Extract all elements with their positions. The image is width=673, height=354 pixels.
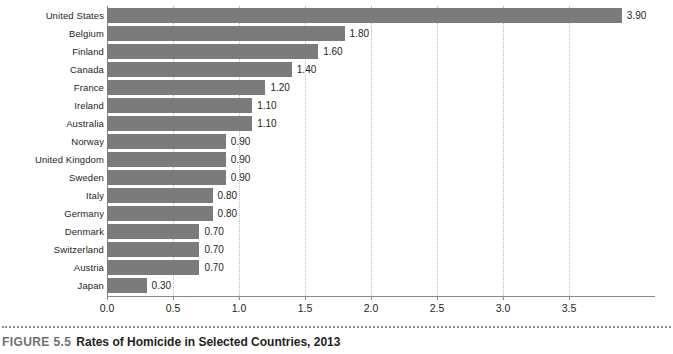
bar-value-label: 0.70 bbox=[204, 243, 223, 256]
bar-row: 0.70 bbox=[107, 242, 673, 257]
bar bbox=[107, 26, 345, 41]
bar bbox=[107, 152, 226, 167]
bar bbox=[107, 116, 252, 131]
caption-divider bbox=[2, 326, 671, 328]
bar bbox=[107, 80, 265, 95]
category-label: Canada bbox=[0, 65, 104, 75]
figure-caption: FIGURE 5.5Rates of Homicide in Selected … bbox=[2, 334, 340, 350]
x-tick-label: 2.0 bbox=[364, 302, 379, 314]
bar-value-label: 1.20 bbox=[270, 81, 289, 94]
bar-row: 1.40 bbox=[107, 62, 673, 77]
category-label: Austria bbox=[0, 263, 104, 273]
bar bbox=[107, 8, 622, 23]
bar-row: 3.90 bbox=[107, 8, 673, 23]
bar-row: 0.90 bbox=[107, 170, 673, 185]
bar-row: 0.70 bbox=[107, 260, 673, 275]
bar bbox=[107, 242, 199, 257]
bar-value-label: 0.90 bbox=[231, 135, 250, 148]
bar bbox=[107, 260, 199, 275]
x-tick-mark bbox=[173, 296, 174, 300]
bar-row: 0.80 bbox=[107, 188, 673, 203]
category-label: United States bbox=[0, 11, 104, 21]
bar-row: 1.20 bbox=[107, 80, 673, 95]
bar-row: 1.10 bbox=[107, 116, 673, 131]
x-tick-mark bbox=[503, 296, 504, 300]
category-label: Belgium bbox=[0, 29, 104, 39]
bar-value-label: 0.90 bbox=[231, 153, 250, 166]
x-tick-mark bbox=[569, 296, 570, 300]
bar bbox=[107, 62, 292, 77]
bar-value-label: 0.80 bbox=[218, 189, 237, 202]
bar-value-label: 0.30 bbox=[152, 279, 171, 292]
bar-value-label: 1.10 bbox=[257, 99, 276, 112]
bar bbox=[107, 98, 252, 113]
x-tick-label: 1.5 bbox=[298, 302, 313, 314]
category-label: Japan bbox=[0, 281, 104, 291]
figure-container: United StatesBelgiumFinlandCanadaFranceI… bbox=[0, 0, 673, 354]
bar-row: 0.80 bbox=[107, 206, 673, 221]
bar bbox=[107, 224, 199, 239]
category-label: Switzerland bbox=[0, 245, 104, 255]
bar-row: 0.30 bbox=[107, 278, 673, 293]
figure-number: FIGURE 5.5 bbox=[2, 335, 71, 349]
x-tick-mark bbox=[107, 296, 108, 300]
bar bbox=[107, 188, 213, 203]
bar bbox=[107, 134, 226, 149]
bar-row: 1.80 bbox=[107, 26, 673, 41]
category-label: Norway bbox=[0, 137, 104, 147]
category-label: Australia bbox=[0, 119, 104, 129]
x-tick-label: 0.0 bbox=[100, 302, 115, 314]
bar-value-label: 1.60 bbox=[323, 45, 342, 58]
category-label: Italy bbox=[0, 191, 104, 201]
x-axis-spine bbox=[107, 296, 655, 297]
bar-row: 0.70 bbox=[107, 224, 673, 239]
category-axis-labels: United StatesBelgiumFinlandCanadaFranceI… bbox=[0, 0, 104, 318]
bar-row: 0.90 bbox=[107, 134, 673, 149]
category-label: United Kingdom bbox=[0, 155, 104, 165]
category-label: Finland bbox=[0, 47, 104, 57]
x-tick-label: 3.0 bbox=[496, 302, 511, 314]
x-tick-mark bbox=[437, 296, 438, 300]
bar-value-label: 0.70 bbox=[204, 225, 223, 238]
category-label: Ireland bbox=[0, 101, 104, 111]
category-label: Germany bbox=[0, 209, 104, 219]
x-tick-mark bbox=[371, 296, 372, 300]
bar-value-label: 0.70 bbox=[204, 261, 223, 274]
x-tick-label: 0.5 bbox=[166, 302, 181, 314]
x-tick-label: 1.0 bbox=[232, 302, 247, 314]
bar-chart: United StatesBelgiumFinlandCanadaFranceI… bbox=[0, 0, 673, 318]
category-label: Denmark bbox=[0, 227, 104, 237]
bar bbox=[107, 170, 226, 185]
bar-value-label: 0.90 bbox=[231, 171, 250, 184]
bar-row: 0.90 bbox=[107, 152, 673, 167]
bar-value-label: 1.80 bbox=[350, 27, 369, 40]
bar-value-label: 3.90 bbox=[627, 9, 646, 22]
bar bbox=[107, 44, 318, 59]
bar bbox=[107, 206, 213, 221]
bar-value-label: 1.10 bbox=[257, 117, 276, 130]
x-tick-mark bbox=[239, 296, 240, 300]
figure-caption-block: FIGURE 5.5Rates of Homicide in Selected … bbox=[0, 324, 673, 354]
category-label: Sweden bbox=[0, 173, 104, 183]
bar-value-label: 1.40 bbox=[297, 63, 316, 76]
figure-title: Rates of Homicide in Selected Countries,… bbox=[76, 335, 340, 349]
bar-row: 1.10 bbox=[107, 98, 673, 113]
bar-value-label: 0.80 bbox=[218, 207, 237, 220]
x-tick-label: 2.5 bbox=[430, 302, 445, 314]
bar bbox=[107, 278, 147, 293]
x-tick-mark bbox=[305, 296, 306, 300]
bar-row: 1.60 bbox=[107, 44, 673, 59]
category-label: France bbox=[0, 83, 104, 93]
x-tick-label: 3.5 bbox=[562, 302, 577, 314]
